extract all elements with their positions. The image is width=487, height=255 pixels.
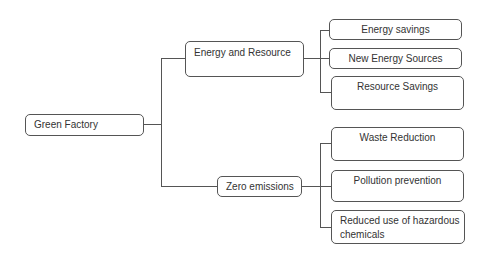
node-energy-and-resource: Energy and Resource	[185, 41, 304, 77]
node-label: Energy and Resource	[194, 47, 303, 58]
connector-group2-trunk	[320, 143, 321, 228]
node-resource-savings: Resource Savings	[331, 76, 464, 110]
node-label: Green Factory	[34, 119, 143, 130]
node-label: Pollution prevention	[332, 175, 463, 186]
node-label: Zero emissions	[226, 181, 301, 192]
node-label: Waste Reduction	[332, 132, 463, 143]
connector-to-resource-savings	[320, 92, 331, 93]
node-energy-savings: Energy savings	[329, 19, 462, 40]
connector-to-waste-reduction	[320, 143, 331, 144]
node-label: New Energy Sources	[330, 53, 461, 64]
node-new-energy-sources: New Energy Sources	[329, 48, 462, 69]
node-label: Reduced use of hazardous chemicals	[340, 214, 460, 242]
node-pollution-prevention: Pollution prevention	[331, 170, 464, 202]
node-waste-reduction: Waste Reduction	[331, 127, 464, 161]
node-label: Resource Savings	[332, 81, 463, 92]
connector-energy-resource-out	[304, 58, 330, 59]
node-zero-emissions: Zero emissions	[217, 176, 302, 197]
connector-to-zero-emissions	[161, 186, 217, 187]
connector-root-out	[144, 124, 162, 125]
node-green-factory: Green Factory	[25, 114, 144, 136]
connector-group1-trunk	[320, 30, 321, 93]
node-label: Energy savings	[330, 24, 461, 35]
node-reduced-hazardous-chemicals: Reduced use of hazardous chemicals	[331, 210, 465, 244]
connector-zero-emissions-out	[302, 186, 331, 187]
connector-root-trunk	[161, 58, 162, 187]
connector-to-reduced-use	[320, 227, 331, 228]
connector-to-energy-resource	[161, 58, 185, 59]
